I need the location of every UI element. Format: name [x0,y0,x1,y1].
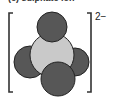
right-bracket [87,13,91,92]
ion-charge-label: 2− [95,11,106,22]
oxygen-atom-top [37,12,67,42]
left-bracket [9,13,13,92]
oxygen-atom-bottom [41,62,75,96]
